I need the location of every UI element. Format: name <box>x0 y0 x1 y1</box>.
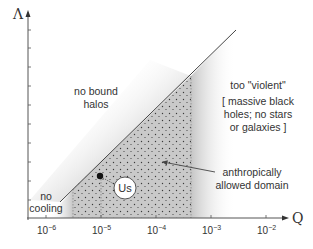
anthropic-diagram: Λ Q 10−6 10−5 10−4 10−3 10−2 no bound ha… <box>0 0 313 249</box>
svg-text:no: no <box>40 190 52 202</box>
svg-text:allowed domain: allowed domain <box>216 179 289 191</box>
svg-text:anthropically: anthropically <box>223 166 283 178</box>
svg-text:too "violent": too "violent" <box>230 79 286 91</box>
y-axis-label: Λ <box>12 6 24 22</box>
us-label: Us <box>118 182 132 194</box>
us-point-icon <box>97 173 103 179</box>
svg-text:holes; no stars: holes; no stars <box>224 108 292 120</box>
svg-text:cooling: cooling <box>29 202 62 214</box>
x-tick-1e-2: 10−2 <box>257 224 276 236</box>
svg-text:no bound: no bound <box>74 85 118 97</box>
svg-text:[ massive black: [ massive black <box>222 95 295 107</box>
svg-text:or galaxies ]: or galaxies ] <box>230 121 287 133</box>
label-too-violent: too "violent" [ massive black holes; no … <box>222 79 295 133</box>
x-tick-1e-6: 10−6 <box>37 224 56 236</box>
x-axis-label: Q <box>292 210 303 226</box>
svg-text:halos: halos <box>83 98 108 110</box>
x-axis-arrow-icon <box>282 216 289 221</box>
x-tick-1e-5: 10−5 <box>92 224 111 236</box>
y-axis-arrow-icon <box>26 10 31 17</box>
x-tick-1e-3: 10−3 <box>202 224 221 236</box>
x-tick-1e-4: 10−4 <box>147 224 166 236</box>
y-axis: Λ <box>12 6 31 220</box>
